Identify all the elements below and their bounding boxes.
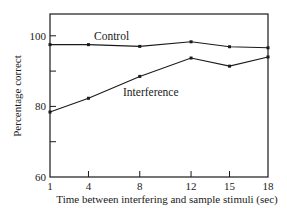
data-point-marker	[49, 43, 52, 46]
y-tick-label: 80	[35, 100, 47, 112]
series-label-control: Control	[94, 30, 129, 42]
data-point-marker	[267, 46, 270, 49]
x-axis: 148121518	[47, 171, 274, 192]
data-point-marker	[87, 97, 90, 100]
series-label-interference: Interference	[123, 86, 179, 98]
data-point-marker	[267, 55, 270, 58]
chart: 6080100 148121518 Control Interference P…	[0, 0, 287, 208]
data-point-marker	[190, 57, 193, 60]
data-point-marker	[228, 65, 231, 68]
x-tick-label: 8	[137, 180, 143, 192]
y-axis: 6080100	[30, 30, 57, 183]
data-point-marker	[138, 45, 141, 48]
series-group	[49, 40, 270, 113]
y-axis-title: Percentage correct	[11, 55, 23, 137]
x-tick-label: 1	[47, 180, 53, 192]
data-point-marker	[138, 75, 141, 78]
x-tick-label: 12	[186, 180, 197, 192]
x-tick-label: 15	[224, 180, 236, 192]
y-tick-label: 60	[35, 171, 47, 183]
x-tick-label: 18	[263, 180, 275, 192]
data-point-marker	[228, 45, 231, 48]
data-point-marker	[49, 111, 52, 114]
x-axis-title: Time between interfering and sample stim…	[56, 193, 278, 206]
series-line-interference	[50, 57, 268, 112]
data-point-marker	[87, 43, 90, 46]
x-tick-label: 4	[86, 180, 92, 192]
series-line-control	[50, 42, 268, 48]
data-point-marker	[190, 40, 193, 43]
y-tick-label: 100	[30, 30, 47, 42]
